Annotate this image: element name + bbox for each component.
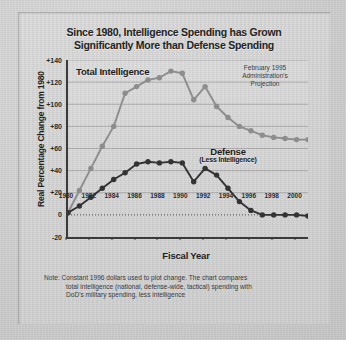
x-axis-label: Fiscal Year <box>66 250 306 261</box>
data-point <box>134 84 139 89</box>
chart-note: Note: Constant 1996 dollars used to plot… <box>44 274 306 300</box>
x-tick-mark <box>226 237 227 240</box>
data-point <box>191 97 196 102</box>
y-tick-label: +120 <box>36 79 62 86</box>
note-body1: Constant 1996 dollars used to plot chang… <box>62 274 248 281</box>
data-point <box>168 68 173 73</box>
x-tick-label: 1994 <box>219 192 233 199</box>
y-tick-label: +100 <box>36 101 62 108</box>
data-point <box>111 124 116 129</box>
annotation-line1: February 1995 <box>226 64 304 72</box>
data-point <box>168 159 173 164</box>
data-point <box>100 186 105 191</box>
data-point <box>294 137 299 142</box>
x-tick-mark <box>248 237 249 240</box>
x-tick-mark <box>203 237 204 240</box>
data-point <box>100 144 105 149</box>
chart-card: Since 1980, Intelligence Spending has Gr… <box>18 12 330 324</box>
x-tick-mark <box>180 237 181 240</box>
data-point <box>202 84 207 89</box>
x-tick-mark <box>111 237 112 240</box>
note-line3: DoD's military spending, less intelligen… <box>44 291 306 300</box>
data-point <box>157 160 162 165</box>
screenshot-root: Since 1980, Intelligence Spending has Gr… <box>0 0 346 340</box>
x-tick-label: 1996 <box>242 192 256 199</box>
note-line2: total intelligence (national, defense-wi… <box>44 283 306 292</box>
data-point <box>237 199 242 204</box>
x-tick-mark <box>294 237 295 240</box>
x-tick-label: 1984 <box>104 192 118 199</box>
data-point <box>88 166 93 171</box>
x-tick-label: 1992 <box>196 192 210 199</box>
x-tick-label: 1990 <box>173 192 187 199</box>
y-tick-label: 0 <box>36 211 62 218</box>
data-point <box>305 137 308 142</box>
data-point <box>145 159 150 164</box>
data-point <box>122 170 127 175</box>
y-tick-label: +80 <box>36 123 62 130</box>
y-tick-label: +140 <box>36 57 62 64</box>
note-line1: Note: Constant 1996 dollars used to plot… <box>44 274 306 283</box>
x-tick-label: 1998 <box>264 192 278 199</box>
data-point <box>225 186 230 191</box>
data-point <box>214 104 219 109</box>
x-tick-mark <box>157 237 158 240</box>
data-point <box>157 75 162 80</box>
data-point <box>271 212 276 217</box>
data-point <box>180 71 185 76</box>
data-point <box>237 124 242 129</box>
x-tick-mark <box>88 237 89 240</box>
x-tick-label: 1980 <box>59 192 73 199</box>
annotation-line3: Projection <box>226 80 304 88</box>
y-tick-label: +40 <box>36 167 62 174</box>
data-point <box>134 161 139 166</box>
data-point <box>214 172 219 177</box>
x-tick-mark <box>134 237 135 240</box>
data-point <box>271 135 276 140</box>
data-point <box>260 212 265 217</box>
x-tick-label: 1986 <box>127 192 141 199</box>
series-label-defense-sub: (Less Intelligence) <box>188 156 268 163</box>
data-point <box>145 77 150 82</box>
data-point <box>191 179 196 184</box>
series-label-defense: Defense (Less Intelligence) <box>188 146 268 163</box>
x-tick-label: 1982 <box>82 192 96 199</box>
data-point <box>180 160 185 165</box>
data-point <box>122 91 127 96</box>
x-tick-mark <box>271 237 272 240</box>
data-point <box>202 166 207 171</box>
x-tick-mark <box>66 237 67 240</box>
y-tick-label: +60 <box>36 145 62 152</box>
plot-area: Total Intelligence Defense (Less Intelli… <box>66 60 308 239</box>
data-point <box>282 136 287 141</box>
data-point <box>305 213 308 218</box>
projection-annotation: February 1995 Administration's Projectio… <box>226 64 304 88</box>
data-point <box>282 212 287 217</box>
data-point <box>111 177 116 182</box>
data-point <box>248 128 253 133</box>
data-point <box>294 212 299 217</box>
x-tick-label: 1988 <box>150 192 164 199</box>
series-label-intelligence: Total Intelligence <box>76 66 149 77</box>
y-tick-label: -20 <box>36 234 62 241</box>
data-point <box>248 208 253 213</box>
data-point <box>77 203 82 208</box>
note-label: Note: <box>44 274 60 281</box>
data-point <box>260 133 265 138</box>
data-point <box>225 115 230 120</box>
series-defense <box>68 159 308 219</box>
annotation-line2: Administration's <box>226 72 304 80</box>
x-tick-label: 2000 <box>287 192 301 199</box>
